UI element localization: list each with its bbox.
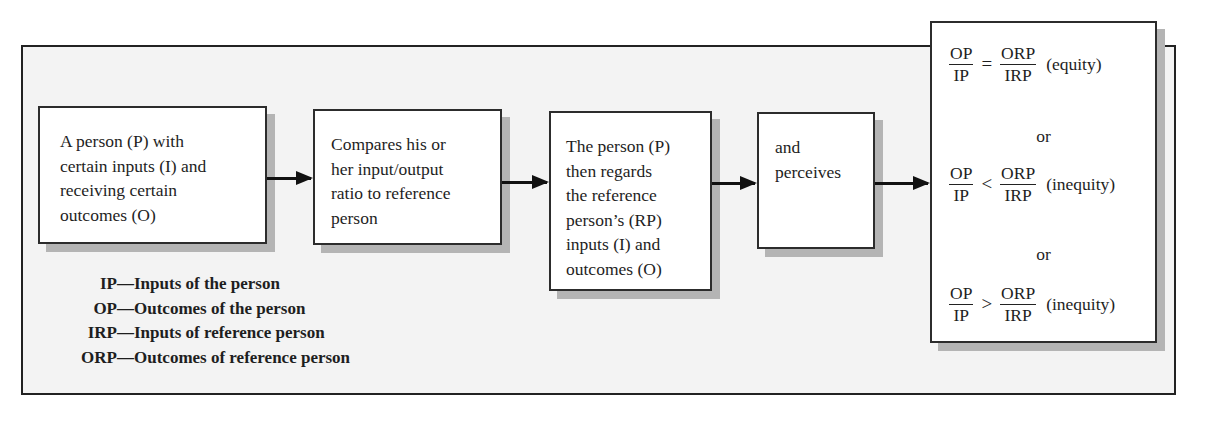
numerator: ORP xyxy=(1000,43,1036,65)
arrow-right-icon xyxy=(267,177,311,180)
legend-row: IP—Inputs of the person xyxy=(38,272,350,297)
numerator: OP xyxy=(949,283,973,305)
numerator: ORP xyxy=(1000,283,1036,305)
legend-meaning: Outcomes of reference person xyxy=(134,346,350,371)
equation-label: (inequity) xyxy=(1046,172,1115,197)
fraction-person: OP IP xyxy=(949,283,973,326)
step-box-perceives: and perceives xyxy=(757,112,875,249)
box-text-line: certain inputs (I) and xyxy=(60,154,265,179)
fraction-reference-person: ORP IRP xyxy=(1000,163,1036,206)
operator-less-than: < xyxy=(981,172,992,197)
box-text-line: A person (P) with xyxy=(60,129,265,154)
numerator: ORP xyxy=(1000,163,1036,185)
abbreviation-legend: IP—Inputs of the person OP—Outcomes of t… xyxy=(38,272,350,370)
fraction-reference-person: ORP IRP xyxy=(1000,43,1036,86)
step-box-compares-ratio: Compares his or her input/output ratio t… xyxy=(313,109,502,245)
legend-abbr: IP xyxy=(38,272,117,297)
legend-meaning: Inputs of reference person xyxy=(134,321,325,346)
fraction-person: OP IP xyxy=(949,43,973,86)
denominator: IP xyxy=(953,65,969,86)
box-text-line: and xyxy=(775,135,873,160)
operator-equals: = xyxy=(981,52,992,77)
fraction-reference-person: ORP IRP xyxy=(1000,283,1036,326)
arrow-right-icon xyxy=(712,182,755,185)
step-box-regards-reference-person: The person (P) then regards the referenc… xyxy=(549,111,712,291)
denominator: IP xyxy=(953,305,969,326)
box-text-line: outcomes (O) xyxy=(60,203,265,228)
box-text-line: ratio to reference xyxy=(331,181,500,206)
legend-meaning: Inputs of the person xyxy=(134,272,280,297)
equation-equity: OP IP = ORP IRP (equity) xyxy=(949,43,1102,86)
box-text-line: the reference xyxy=(566,183,710,208)
legend-dash: — xyxy=(117,297,134,322)
box-text-line: inputs (I) and xyxy=(566,232,710,257)
legend-meaning: Outcomes of the person xyxy=(134,297,305,322)
legend-row: IRP—Inputs of reference person xyxy=(38,321,350,346)
box-text-line: The person (P) xyxy=(566,134,710,159)
numerator: OP xyxy=(949,43,973,65)
box-text-line: person xyxy=(331,206,500,231)
denominator: IP xyxy=(953,185,969,206)
equation-inequity-greater: OP IP > ORP IRP (inequity) xyxy=(949,283,1115,326)
box-text-line: person’s (RP) xyxy=(566,208,710,233)
or-separator: or xyxy=(932,242,1155,267)
legend-row: ORP—Outcomes of reference person xyxy=(38,346,350,371)
legend-dash: — xyxy=(117,272,134,297)
arrow-right-icon xyxy=(502,181,547,184)
outcomes-equations-box: OP IP = ORP IRP (equity) or OP IP < ORP … xyxy=(930,21,1157,343)
box-text-line: perceives xyxy=(775,160,873,185)
legend-dash: — xyxy=(117,346,134,371)
legend-dash: — xyxy=(117,321,134,346)
box-text-line: receiving certain xyxy=(60,178,265,203)
legend-row: OP—Outcomes of the person xyxy=(38,297,350,322)
legend-abbr: IRP xyxy=(38,321,117,346)
step-box-person-inputs-outcomes: A person (P) with certain inputs (I) and… xyxy=(38,106,267,244)
denominator: IRP xyxy=(1005,305,1032,326)
equation-label: (equity) xyxy=(1046,52,1101,77)
denominator: IRP xyxy=(1005,185,1032,206)
box-text-line: outcomes (O) xyxy=(566,257,710,282)
box-text-line: Compares his or xyxy=(331,132,500,157)
equation-inequity-less: OP IP < ORP IRP (inequity) xyxy=(949,163,1115,206)
operator-greater-than: > xyxy=(981,292,992,317)
or-separator: or xyxy=(932,124,1155,149)
box-text-line: her input/output xyxy=(331,157,500,182)
legend-abbr: ORP xyxy=(38,346,117,371)
legend-abbr: OP xyxy=(38,297,117,322)
denominator: IRP xyxy=(1005,65,1032,86)
arrow-right-icon xyxy=(875,182,928,185)
numerator: OP xyxy=(949,163,973,185)
box-text-line: then regards xyxy=(566,159,710,184)
equation-label: (inequity) xyxy=(1046,292,1115,317)
fraction-person: OP IP xyxy=(949,163,973,206)
